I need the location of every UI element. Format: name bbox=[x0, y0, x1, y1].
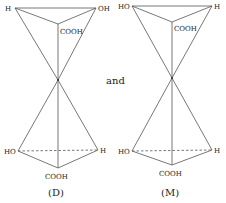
bond bbox=[18, 151, 58, 168]
bond bbox=[18, 80, 58, 151]
bond bbox=[58, 80, 98, 150]
caption-d: (D) bbox=[48, 187, 64, 198]
bond bbox=[58, 8, 96, 80]
atom-label: H bbox=[100, 147, 106, 155]
molecule-m: HO H COOH HO H COOH (M) bbox=[118, 3, 220, 199]
bond bbox=[132, 6, 172, 22]
atom-label: COOH bbox=[45, 173, 68, 181]
atom-label: HO bbox=[118, 3, 130, 11]
bond bbox=[132, 151, 172, 165]
stereocenter bbox=[57, 79, 59, 81]
bond bbox=[58, 150, 98, 168]
bond bbox=[132, 6, 172, 78]
stereo-diagram: H OH COOH HO H COOH (D) and HO H COOH HO… bbox=[0, 0, 226, 203]
bond bbox=[15, 8, 58, 80]
atom-label: HO bbox=[118, 148, 130, 156]
atom-label: H bbox=[5, 5, 11, 13]
atom-label: OH bbox=[98, 5, 110, 13]
bond bbox=[15, 8, 58, 24]
atom-label: H bbox=[214, 147, 220, 155]
caption-m: (M) bbox=[161, 187, 179, 198]
bond bbox=[172, 78, 212, 150]
connector-and: and bbox=[106, 75, 125, 86]
bond bbox=[172, 150, 212, 165]
atom-label: H bbox=[214, 3, 220, 11]
bond bbox=[172, 6, 212, 78]
atom-label: COOH bbox=[159, 170, 182, 178]
stereocenter bbox=[171, 77, 173, 79]
atom-label: HO bbox=[4, 148, 16, 156]
molecule-d: H OH COOH HO H COOH (D) bbox=[4, 5, 110, 199]
atom-label: COOH bbox=[174, 25, 197, 33]
atom-label: COOH bbox=[60, 28, 83, 36]
bond bbox=[172, 6, 212, 22]
bond bbox=[58, 8, 96, 24]
bond bbox=[132, 78, 172, 151]
